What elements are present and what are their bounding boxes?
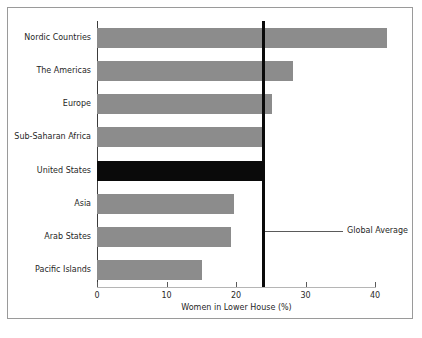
x-axis-line bbox=[97, 287, 376, 288]
annotation-label-global-average: Global Average bbox=[347, 226, 408, 236]
category-label-pacific-islands: Pacific Islands bbox=[35, 265, 91, 275]
annotation-leader-line bbox=[265, 231, 343, 232]
x-tick-mark-20 bbox=[236, 282, 237, 287]
plot-area: Nordic CountriesThe AmericasEuropeSub-Sa… bbox=[0, 0, 422, 338]
bar-europe bbox=[97, 94, 272, 114]
x-tick-label-30: 30 bbox=[300, 290, 310, 301]
category-label-asia: Asia bbox=[74, 199, 91, 209]
x-tick-mark-0 bbox=[97, 282, 98, 287]
category-label-sub-saharan-africa: Sub-Saharan Africa bbox=[14, 132, 91, 142]
x-axis-label: Women in Lower House (%) bbox=[97, 303, 376, 312]
global-average-line bbox=[262, 21, 265, 287]
x-tick-mark-40 bbox=[375, 282, 376, 287]
category-label-europe: Europe bbox=[63, 99, 91, 109]
x-tick-label-0: 0 bbox=[94, 290, 99, 301]
category-label-nordic-countries: Nordic Countries bbox=[24, 33, 91, 43]
x-tick-mark-10 bbox=[167, 282, 168, 287]
x-tick-mark-30 bbox=[306, 282, 307, 287]
x-tick-label-20: 20 bbox=[231, 290, 241, 301]
bar-sub-saharan-africa bbox=[97, 127, 262, 147]
bar-arab-states bbox=[97, 227, 231, 247]
figure: Nordic CountriesThe AmericasEuropeSub-Sa… bbox=[0, 0, 422, 338]
category-label-arab-states: Arab States bbox=[44, 232, 91, 242]
category-label-united-states: United States bbox=[37, 166, 91, 176]
x-tick-label-10: 10 bbox=[161, 290, 171, 301]
category-label-the-americas: The Americas bbox=[36, 66, 91, 76]
bar-united-states bbox=[97, 161, 264, 181]
bar-asia bbox=[97, 194, 234, 214]
bar-pacific-islands bbox=[97, 260, 202, 280]
x-tick-label-40: 40 bbox=[370, 290, 380, 301]
bar-nordic-countries bbox=[97, 28, 387, 48]
